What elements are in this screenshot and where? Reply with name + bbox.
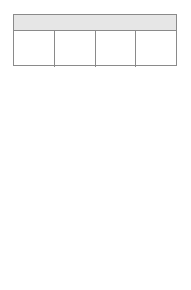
column-header-3-in-family — [96, 31, 137, 67]
table-title — [14, 15, 176, 31]
column-header-more-than-3 — [136, 31, 176, 67]
table-columns — [14, 31, 176, 67]
column-header-only-you — [14, 31, 55, 67]
column-header-2-in-family — [55, 31, 96, 67]
children-in-family-table — [13, 14, 177, 66]
